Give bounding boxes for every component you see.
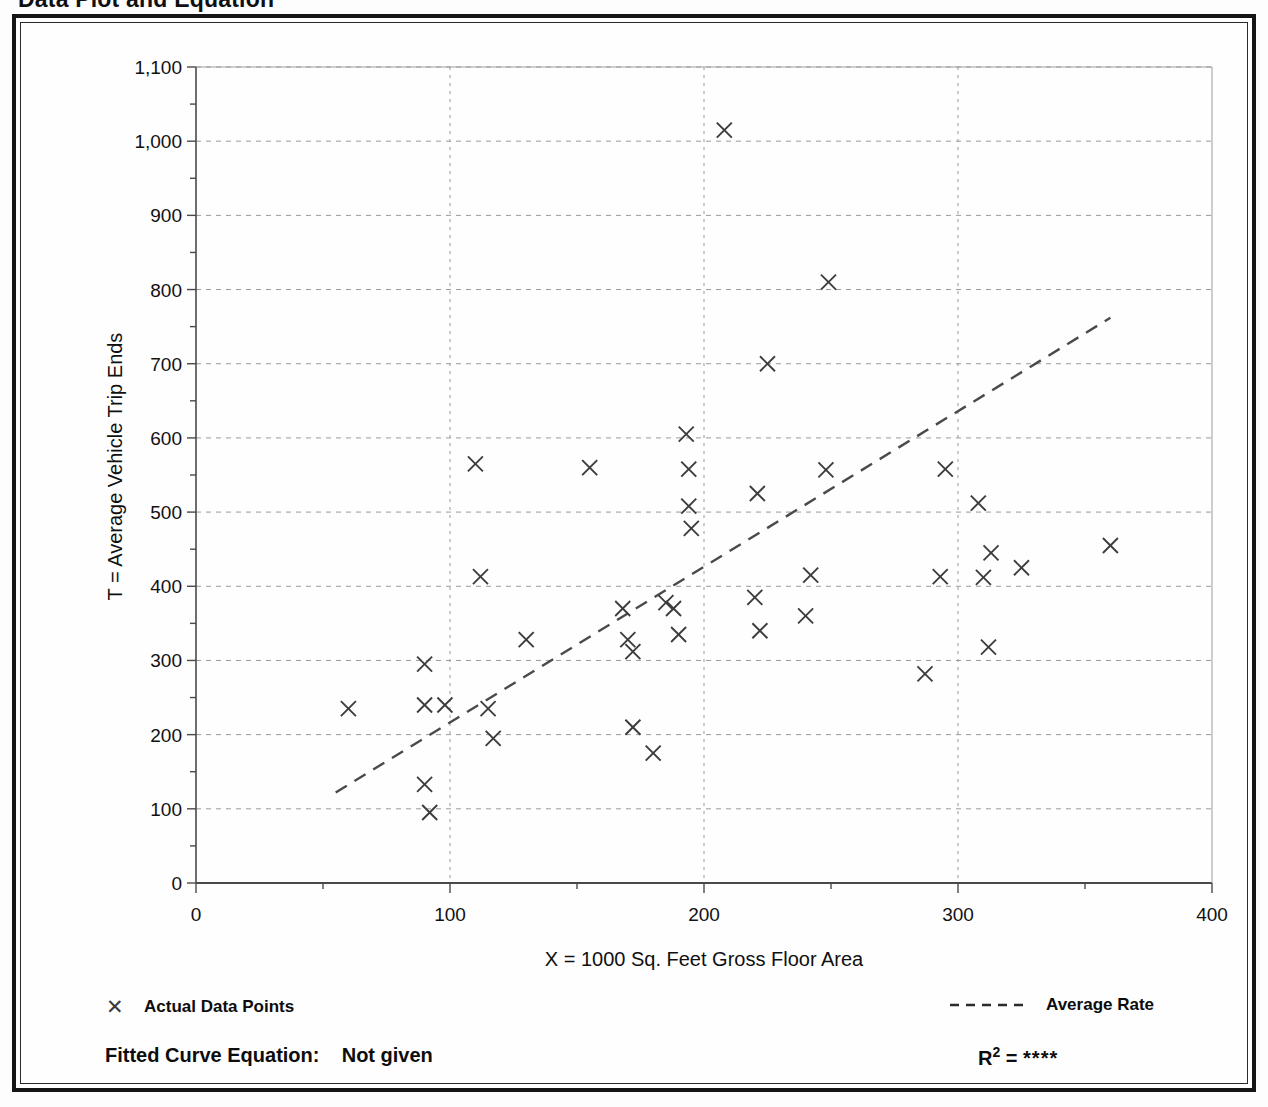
data-point-markers bbox=[341, 123, 1118, 820]
y-axis-tick-label: 1,000 bbox=[112, 132, 182, 151]
r-squared-stars: **** bbox=[1023, 1047, 1058, 1069]
data-point-marker bbox=[620, 632, 635, 647]
fitted-curve-equation-value: Not given bbox=[342, 1044, 433, 1066]
data-point-marker bbox=[671, 627, 686, 642]
data-point-marker bbox=[717, 123, 732, 138]
r-squared-value: R2 = **** bbox=[978, 1044, 1058, 1070]
data-point-marker bbox=[679, 427, 694, 442]
data-point-marker bbox=[625, 720, 640, 735]
data-point-marker bbox=[933, 569, 948, 584]
y-axis-tick-label: 0 bbox=[112, 874, 182, 893]
data-point-marker bbox=[646, 746, 661, 761]
chart-footer: Fitted Curve Equation: Not given R2 = **… bbox=[0, 1044, 1268, 1084]
data-point-marker bbox=[798, 608, 813, 623]
data-point-marker bbox=[821, 275, 836, 290]
dashed-line-icon bbox=[948, 998, 1032, 1012]
data-point-marker bbox=[341, 701, 356, 716]
x-axis-tick-label: 0 bbox=[156, 905, 236, 924]
y-axis-tick-label: 100 bbox=[112, 800, 182, 819]
data-point-marker bbox=[1103, 538, 1118, 553]
data-point-marker bbox=[422, 805, 437, 820]
r-squared-equals: = bbox=[1006, 1047, 1018, 1069]
data-point-marker bbox=[481, 701, 496, 716]
data-point-marker bbox=[684, 521, 699, 536]
data-point-marker bbox=[803, 568, 818, 583]
data-point-marker bbox=[750, 486, 765, 501]
data-point-marker bbox=[417, 777, 432, 792]
legend-label-actual-data-points: Actual Data Points bbox=[144, 997, 294, 1017]
scatter-plot-canvas bbox=[0, 0, 1268, 1107]
chart-legend: ✕ Actual Data Points Average Rate bbox=[0, 995, 1268, 1027]
y-axis-title: T = Average Vehicle Trip Ends bbox=[104, 257, 127, 677]
data-point-marker bbox=[917, 666, 932, 681]
data-point-marker bbox=[658, 595, 673, 610]
r-squared-exponent: 2 bbox=[992, 1044, 1000, 1060]
dashed-line-swatch bbox=[948, 998, 1032, 1012]
fitted-curve-equation-label: Fitted Curve Equation: bbox=[105, 1044, 319, 1066]
y-axis-tick-label: 900 bbox=[112, 206, 182, 225]
y-axis-tick-label: 1,100 bbox=[112, 58, 182, 77]
r-squared-label: R bbox=[978, 1047, 992, 1069]
data-point-marker bbox=[1014, 560, 1029, 575]
data-point-marker bbox=[666, 601, 681, 616]
data-point-marker bbox=[417, 697, 432, 712]
data-point-marker bbox=[519, 632, 534, 647]
gridlines-major bbox=[196, 67, 1212, 883]
x-axis-tick-label: 300 bbox=[918, 905, 998, 924]
data-point-marker bbox=[468, 456, 483, 471]
data-point-marker bbox=[417, 657, 432, 672]
fitted-curve-equation: Fitted Curve Equation: Not given bbox=[105, 1044, 433, 1067]
chart-region: 01002003004005006007008009001,0001,100 0… bbox=[0, 0, 1268, 1107]
y-axis-tick-label: 200 bbox=[112, 726, 182, 745]
data-point-marker bbox=[976, 570, 991, 585]
legend-label-average-rate: Average Rate bbox=[1046, 995, 1154, 1015]
legend-item-average-rate: Average Rate bbox=[948, 995, 1154, 1015]
x-axis-tick-label: 200 bbox=[664, 905, 744, 924]
data-point-marker bbox=[747, 590, 762, 605]
data-point-marker bbox=[971, 496, 986, 511]
cross-marker-icon: ✕ bbox=[100, 995, 130, 1019]
data-point-marker bbox=[681, 499, 696, 514]
data-point-marker bbox=[437, 697, 452, 712]
x-axis-title: X = 1000 Sq. Feet Gross Floor Area bbox=[196, 948, 1212, 971]
data-point-marker bbox=[615, 601, 630, 616]
x-axis-tick-label: 400 bbox=[1172, 905, 1252, 924]
data-point-marker bbox=[582, 460, 597, 475]
x-axis-tick-label: 100 bbox=[410, 905, 490, 924]
data-point-marker bbox=[473, 569, 488, 584]
axis-tick-marks bbox=[187, 67, 1212, 893]
data-point-marker bbox=[818, 462, 833, 477]
data-point-marker bbox=[981, 640, 996, 655]
data-point-marker bbox=[681, 462, 696, 477]
legend-item-actual-data-points: ✕ Actual Data Points bbox=[100, 995, 294, 1019]
data-point-marker bbox=[625, 644, 640, 659]
data-point-marker bbox=[486, 731, 501, 746]
data-point-marker bbox=[984, 545, 999, 560]
data-point-marker bbox=[752, 623, 767, 638]
data-point-marker bbox=[938, 462, 953, 477]
data-point-marker bbox=[760, 356, 775, 371]
